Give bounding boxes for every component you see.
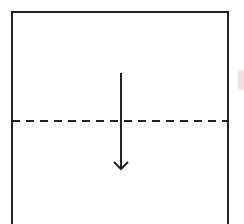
diagram-canvas: [0, 0, 244, 224]
scan-artifact: [238, 70, 244, 90]
fold-diagram: Fold paper in half downward along dashed…: [0, 0, 244, 224]
